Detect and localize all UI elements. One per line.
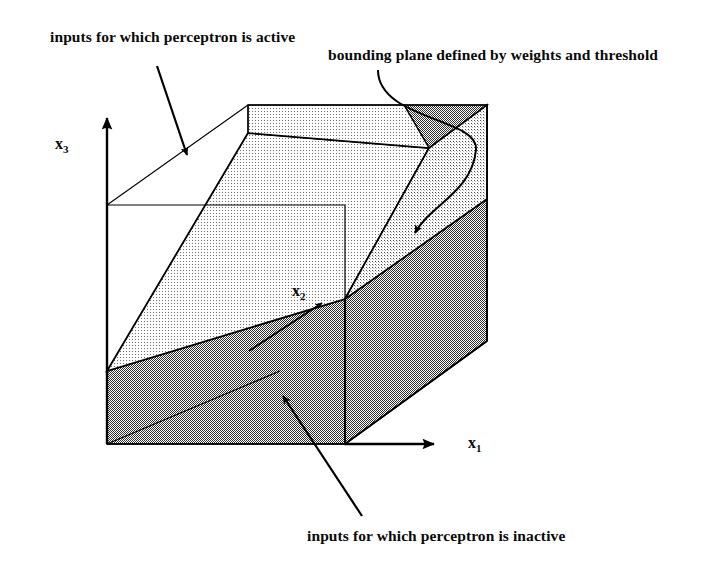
axis-label-x2: x2 [292, 282, 306, 302]
axis-label-x3-base: x [55, 135, 63, 152]
perceptron-bounding-plane-figure [0, 0, 722, 565]
axis-label-x3-sub: 3 [63, 143, 69, 155]
caption-bounding-plane: bounding plane defined by weights and th… [328, 46, 658, 64]
axis-label-x2-sub: 2 [300, 290, 306, 302]
axis-label-x1-base: x [468, 434, 476, 451]
caption-inactive: inputs for which perceptron is inactive [307, 527, 565, 545]
active-leader-arrow [157, 66, 187, 155]
caption-active: inputs for which perceptron is active [50, 28, 295, 46]
axis-label-x1-sub: 1 [476, 442, 482, 454]
axis-label-x1: x1 [468, 434, 482, 454]
axis-label-x2-base: x [292, 282, 300, 299]
axis-label-x3: x3 [55, 135, 69, 155]
